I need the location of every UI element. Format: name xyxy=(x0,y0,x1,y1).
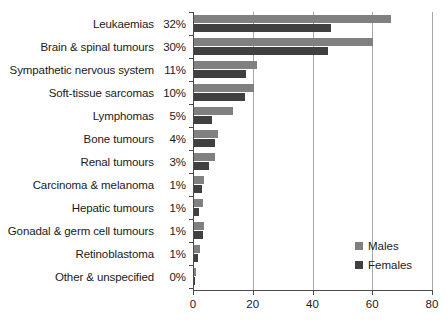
category-percent: 1% xyxy=(160,225,186,237)
category-percent: 1% xyxy=(160,202,186,214)
category-label-column: Leukaemias32%Brain & spinal tumours30%Sy… xyxy=(0,12,186,288)
category-label: Bone tumours4% xyxy=(0,127,186,150)
category-name: Renal tumours xyxy=(81,156,154,168)
x-axis-tick-label: 40 xyxy=(293,298,333,310)
category-name: Other & unspecified xyxy=(55,271,154,283)
x-axis-tick-label: 0 xyxy=(173,298,213,310)
category-label: Sympathetic nervous system11% xyxy=(0,58,186,81)
legend-label: Females xyxy=(368,259,412,271)
category-label: Hepatic tumours1% xyxy=(0,196,186,219)
x-axis-tick xyxy=(253,290,254,295)
x-axis-tick-label: 20 xyxy=(233,298,273,310)
category-percent: 3% xyxy=(160,156,186,168)
category-percent: 0% xyxy=(160,271,186,283)
category-label: Other & unspecified0% xyxy=(0,265,186,288)
legend-item: Males xyxy=(355,236,412,255)
x-axis-tick-label: 80 xyxy=(412,298,447,310)
chart-legend: MalesFemales xyxy=(355,236,412,274)
category-percent: 1% xyxy=(160,179,186,191)
category-name: Leukaemias xyxy=(93,18,154,30)
legend-label: Males xyxy=(368,240,399,252)
category-percent: 5% xyxy=(160,110,186,122)
x-axis-tick xyxy=(432,290,433,295)
category-name: Brain & spinal tumours xyxy=(41,41,155,53)
category-label: Leukaemias32% xyxy=(0,12,186,35)
category-name: Lymphomas xyxy=(93,110,154,122)
x-axis-tick xyxy=(313,290,314,295)
category-percent: 10% xyxy=(160,87,186,99)
category-name: Sympathetic nervous system xyxy=(10,64,154,76)
bar-chart: Leukaemias32%Brain & spinal tumours30%Sy… xyxy=(0,0,447,329)
category-percent: 11% xyxy=(160,64,186,76)
legend-item: Females xyxy=(355,255,412,274)
category-label: Renal tumours3% xyxy=(0,150,186,173)
legend-swatch-icon xyxy=(355,261,363,269)
category-name: Carcinoma & melanoma xyxy=(33,179,154,191)
category-percent: 30% xyxy=(160,41,186,53)
category-label: Retinoblastoma1% xyxy=(0,242,186,265)
x-axis-tick xyxy=(372,290,373,295)
category-name: Bone tumours xyxy=(84,133,154,145)
category-label: Lymphomas5% xyxy=(0,104,186,127)
category-label: Brain & spinal tumours30% xyxy=(0,35,186,58)
x-axis-tick xyxy=(193,290,194,295)
legend-swatch-icon xyxy=(355,242,363,250)
category-label: Carcinoma & melanoma1% xyxy=(0,173,186,196)
category-name: Gonadal & germ cell tumours xyxy=(8,225,154,237)
category-percent: 1% xyxy=(160,248,186,260)
category-name: Retinoblastoma xyxy=(75,248,154,260)
category-name: Soft-tissue sarcomas xyxy=(49,87,154,99)
x-axis-tick-label: 60 xyxy=(352,298,392,310)
category-percent: 4% xyxy=(160,133,186,145)
category-label: Gonadal & germ cell tumours1% xyxy=(0,219,186,242)
category-percent: 32% xyxy=(160,18,186,30)
category-name: Hepatic tumours xyxy=(72,202,154,214)
category-label: Soft-tissue sarcomas10% xyxy=(0,81,186,104)
